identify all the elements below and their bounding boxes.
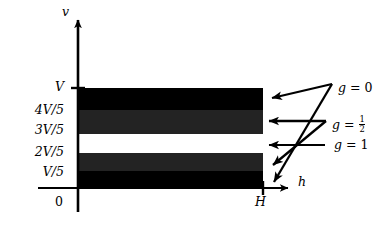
y-tick-label-2V5: 2V/5 bbox=[18, 146, 64, 159]
annotation-g-one-half: g = 12 bbox=[332, 115, 366, 133]
band-group bbox=[78, 88, 263, 188]
annotation-g-zero-prefix: g = bbox=[338, 80, 364, 95]
annotation-g-one: g = 1 bbox=[334, 139, 368, 152]
band-bottom-black bbox=[78, 171, 263, 188]
h-axis-label: h bbox=[298, 176, 306, 189]
band-lower-gray bbox=[78, 153, 263, 171]
y-tick-label-3V5: 3V/5 bbox=[18, 124, 64, 137]
arrow-g0-to-top-band bbox=[272, 84, 332, 98]
y-tick-label-4V5: 4V/5 bbox=[18, 104, 64, 117]
annotation-g-one-half-prefix: g = bbox=[332, 117, 358, 132]
annotation-g-zero-value: 0 bbox=[364, 80, 372, 95]
band-top-black bbox=[78, 88, 263, 110]
band-middle-white bbox=[78, 134, 263, 153]
arrow-g0-to-bottom-band bbox=[274, 84, 332, 182]
arrows-g-zero bbox=[272, 84, 332, 182]
h-max-label: H bbox=[255, 196, 266, 209]
figure-canvas: v h 0 H V 4V/5 3V/5 2V/5 V/5 g = 0 g = 1… bbox=[0, 0, 390, 226]
origin-label: 0 bbox=[55, 196, 63, 209]
band-upper-gray bbox=[78, 110, 263, 134]
y-tick-label-V5: V/5 bbox=[18, 166, 64, 179]
fraction-denominator: 2 bbox=[359, 125, 366, 134]
annotation-g-one-half-fraction: 12 bbox=[359, 115, 366, 133]
annotation-g-one-value: 1 bbox=[360, 137, 368, 152]
arrow-ghalf-to-lower-gray bbox=[273, 121, 326, 165]
annotation-g-one-prefix: g = bbox=[334, 137, 360, 152]
v-axis-label: v bbox=[62, 6, 69, 19]
y-tick-label-V: V bbox=[22, 81, 64, 94]
annotation-g-zero: g = 0 bbox=[338, 82, 372, 95]
